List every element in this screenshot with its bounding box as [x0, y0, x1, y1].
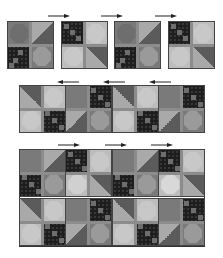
half-square-triangle-unit	[136, 150, 159, 173]
snowball-unit	[169, 45, 192, 68]
snowball-unit	[89, 150, 112, 173]
nine-patch-unit	[159, 150, 182, 173]
sashing-strip	[190, 22, 193, 68]
quilt-block-a	[19, 149, 66, 197]
nine-patch-unit	[115, 45, 138, 68]
half-square-triangle-unit	[182, 173, 205, 196]
snowball-unit	[43, 199, 66, 222]
snowball-unit	[62, 45, 85, 68]
snowball-unit	[113, 150, 136, 173]
nine-patch-unit	[113, 173, 136, 196]
snowball-unit	[66, 86, 89, 109]
half-square-triangle-unit	[192, 45, 215, 68]
snowball-unit	[138, 45, 161, 68]
quilt-block-d	[158, 85, 205, 133]
half-square-triangle-unit	[138, 22, 161, 45]
snowball-unit	[159, 173, 182, 196]
snowball-unit	[182, 150, 205, 173]
nine-patch-unit	[182, 199, 205, 222]
quilt-block-d	[158, 198, 205, 246]
joined-rows-assembly	[19, 149, 205, 247]
nine-patch-unit	[89, 86, 112, 109]
press-arrow-right	[155, 14, 177, 18]
press-arrow-right	[48, 14, 70, 18]
snowball-unit	[159, 86, 182, 109]
sashing-strip	[87, 86, 90, 132]
snowball-unit	[182, 222, 205, 245]
nine-patch-unit	[136, 109, 159, 132]
sashing-strip	[134, 150, 137, 196]
snowball-unit	[159, 199, 182, 222]
half-square-triangle-unit	[159, 109, 182, 132]
snowball-unit	[136, 86, 159, 109]
snowball-unit	[43, 173, 66, 196]
quilt-block-c	[112, 198, 159, 246]
press-arrow-left	[149, 80, 171, 84]
half-square-triangle-unit	[66, 109, 89, 132]
half-square-triangle-unit	[66, 222, 89, 245]
joined-row-strip	[19, 85, 205, 133]
press-arrow-right	[58, 143, 80, 147]
quilt-block-a	[114, 21, 161, 69]
quilt-block-b	[158, 149, 205, 197]
snowball-unit	[113, 222, 136, 245]
press-arrow-left	[57, 80, 79, 84]
snowball-unit	[89, 109, 112, 132]
sashing-strip	[180, 199, 183, 245]
quilt-block-d	[65, 198, 112, 246]
snowball-unit	[115, 22, 138, 45]
quilt-block-a	[7, 21, 54, 69]
half-square-triangle-unit	[31, 22, 54, 45]
half-square-triangle-unit	[159, 222, 182, 245]
nine-patch-unit	[169, 22, 192, 45]
nine-patch-unit	[43, 109, 66, 132]
nine-patch-unit	[62, 22, 85, 45]
half-square-triangle-unit	[113, 86, 136, 109]
quilt-block-b	[61, 21, 108, 69]
press-arrow-right	[101, 14, 123, 18]
snowball-unit	[136, 199, 159, 222]
sashing-strip	[29, 22, 32, 68]
quilt-block-c	[19, 85, 66, 133]
sashing-strip	[41, 86, 44, 132]
snowball-unit	[43, 86, 66, 109]
sashing-strip	[136, 22, 139, 68]
quilt-block-b	[168, 21, 215, 69]
snowball-unit	[8, 22, 31, 45]
sashing-strip	[41, 199, 44, 245]
sashing-strip	[41, 150, 44, 196]
press-arrow-right	[151, 143, 173, 147]
snowball-unit	[66, 199, 89, 222]
snowball-unit	[20, 109, 43, 132]
quilt-block-c	[19, 198, 66, 246]
press-arrow-left	[103, 80, 125, 84]
snowball-unit	[136, 173, 159, 196]
quilt-block-d	[65, 85, 112, 133]
sashing-strip	[87, 199, 90, 245]
quilt-block-b	[65, 149, 112, 197]
snowball-unit	[20, 222, 43, 245]
press-arrow-right	[105, 143, 127, 147]
half-square-triangle-unit	[113, 199, 136, 222]
sashing-strip	[180, 86, 183, 132]
snowball-unit	[20, 150, 43, 173]
snowball-unit	[192, 22, 215, 45]
nine-patch-unit	[43, 222, 66, 245]
nine-patch-unit	[182, 86, 205, 109]
sashing-strip	[87, 150, 90, 196]
snowball-unit	[66, 173, 89, 196]
nine-patch-unit	[136, 222, 159, 245]
snowball-unit	[85, 22, 108, 45]
snowball-unit	[31, 45, 54, 68]
nine-patch-unit	[89, 199, 112, 222]
snowball-unit	[113, 109, 136, 132]
half-square-triangle-unit	[20, 199, 43, 222]
nine-patch-unit	[20, 173, 43, 196]
sashing-strip	[134, 86, 137, 132]
half-square-triangle-unit	[89, 173, 112, 196]
quilt-block-c	[112, 85, 159, 133]
half-square-triangle-unit	[20, 86, 43, 109]
quilt-block-a	[112, 149, 159, 197]
snowball-unit	[89, 222, 112, 245]
sashing-strip	[83, 22, 86, 68]
